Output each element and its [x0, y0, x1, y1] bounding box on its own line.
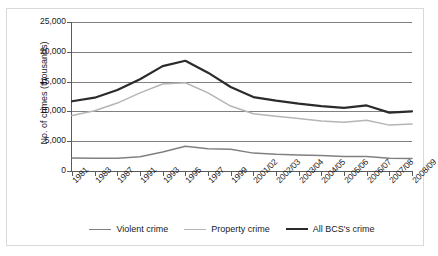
y-axis-tick [67, 52, 71, 53]
legend-item[interactable]: All BCS's crime [286, 224, 375, 234]
chart-legend: Violent crimeProperty crimeAll BCS's cri… [72, 221, 392, 237]
series-line [72, 83, 412, 125]
legend-swatch [184, 229, 206, 230]
y-axis-tick [67, 141, 71, 142]
legend-item[interactable]: Violent crime [89, 224, 168, 234]
legend-swatch [286, 228, 308, 230]
legend-item[interactable]: Property crime [184, 224, 270, 234]
legend-swatch [89, 229, 111, 230]
y-axis-tick [67, 82, 71, 83]
series-line [72, 61, 412, 113]
series-line [72, 146, 412, 158]
y-axis-tick [67, 111, 71, 112]
y-axis-tick [67, 171, 71, 172]
legend-label: Property crime [211, 224, 270, 234]
legend-label: All BCS's crime [313, 224, 375, 234]
y-axis-tick [67, 22, 71, 23]
legend-label: Violent crime [116, 224, 168, 234]
